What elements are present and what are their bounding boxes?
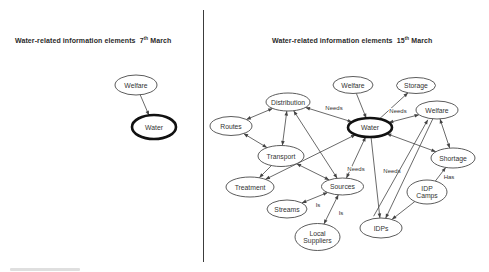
cropped-caption-remnant bbox=[10, 268, 80, 271]
node-sources: Sources bbox=[322, 178, 364, 195]
node-shortage: Shortage bbox=[431, 148, 475, 168]
node-label: Water bbox=[145, 124, 164, 131]
node-label: Welfare bbox=[124, 82, 148, 89]
node-label: Suppliers bbox=[303, 237, 332, 245]
node-l_welfare: Welfare bbox=[115, 75, 157, 95]
edge-idp_camps-idps bbox=[392, 202, 415, 220]
edge-water-welfare_right: Needs bbox=[389, 108, 419, 123]
edge-label: Is bbox=[339, 210, 344, 216]
edge-transport-treatment bbox=[259, 166, 271, 178]
node-label: Shortage bbox=[439, 155, 467, 163]
node-label: Storage bbox=[404, 82, 428, 90]
edge-water-sources: Needs bbox=[346, 137, 365, 178]
edge-l_welfare-l_water bbox=[140, 95, 149, 116]
edge-distribution-transport bbox=[281, 111, 288, 146]
node-label: Welfare bbox=[425, 107, 449, 114]
node-water: Water bbox=[348, 118, 392, 137]
edge-routes-transport bbox=[244, 134, 267, 148]
node-label: IDPs bbox=[374, 225, 389, 232]
edge-local_suppliers-sources: Is bbox=[324, 195, 343, 224]
node-transport: Transport bbox=[258, 146, 304, 167]
node-label: IDP bbox=[421, 185, 433, 192]
edge-welfare_right-shortage bbox=[440, 119, 450, 148]
edge-water-idps: Needs bbox=[371, 137, 401, 218]
node-label: Local bbox=[309, 230, 326, 237]
node-label: Welfare bbox=[341, 82, 365, 89]
edge-transport-sources bbox=[297, 164, 330, 180]
node-label: Transport bbox=[267, 153, 296, 161]
edge-water-storage bbox=[379, 93, 408, 119]
node-streams: Streams bbox=[267, 200, 307, 218]
edge-water-distribution: Needs bbox=[306, 105, 353, 122]
node-routes: Routes bbox=[210, 117, 252, 136]
node-distribution: Distribution bbox=[266, 93, 310, 111]
node-idps: IDPs bbox=[360, 218, 402, 238]
edge-label: Has bbox=[444, 174, 455, 180]
edge-routes-distribution bbox=[246, 108, 272, 119]
node-welfare_right: Welfare bbox=[416, 101, 458, 119]
edge-label: Needs bbox=[325, 105, 342, 111]
edge-label: Needs bbox=[347, 166, 364, 172]
figure-page: { "panels": { "left": { "title": { "befo… bbox=[0, 0, 489, 272]
node-label: Water bbox=[361, 124, 380, 131]
node-idp_camps: IDPCamps bbox=[407, 180, 447, 204]
node-local_suppliers: LocalSuppliers bbox=[295, 224, 340, 251]
edge-label: Is bbox=[316, 202, 321, 208]
node-label: Camps bbox=[416, 192, 438, 200]
edge-welfare_top-water bbox=[356, 93, 366, 118]
node-label: Treatment bbox=[235, 184, 266, 191]
node-treatment: Treatment bbox=[226, 177, 274, 197]
concept-map-canvas: NeedsNeedsNeedsNeedsHasIsIsWelfareWaterW… bbox=[0, 0, 489, 272]
node-label: Sources bbox=[330, 183, 356, 190]
node-label: Routes bbox=[220, 123, 242, 130]
node-label: Distribution bbox=[271, 99, 305, 106]
edge-label: Needs bbox=[389, 108, 406, 114]
edge-distribution-sources bbox=[294, 111, 338, 179]
node-l_water: Water bbox=[132, 115, 176, 139]
edge-idp_camps-shortage: Has bbox=[435, 167, 454, 181]
node-welfare_top: Welfare bbox=[333, 77, 373, 94]
node-storage: Storage bbox=[397, 78, 436, 94]
node-label: Streams bbox=[274, 206, 300, 213]
